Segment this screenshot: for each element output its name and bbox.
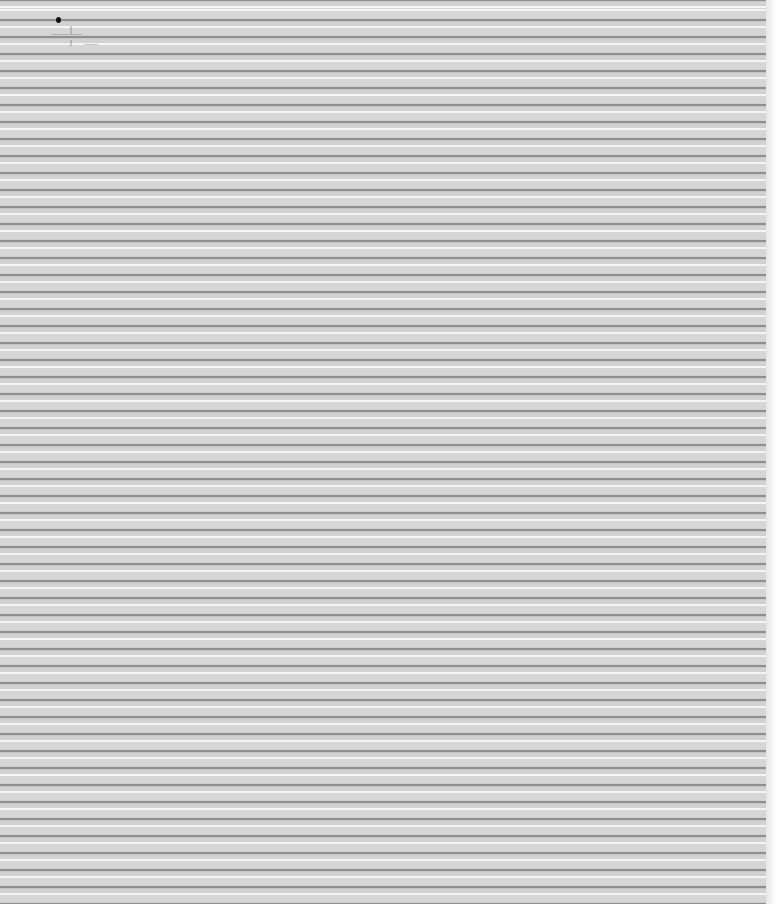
striped-surface <box>0 0 766 904</box>
right-margin <box>766 0 776 904</box>
faint-smudge <box>48 26 104 50</box>
ink-dot <box>56 17 61 23</box>
